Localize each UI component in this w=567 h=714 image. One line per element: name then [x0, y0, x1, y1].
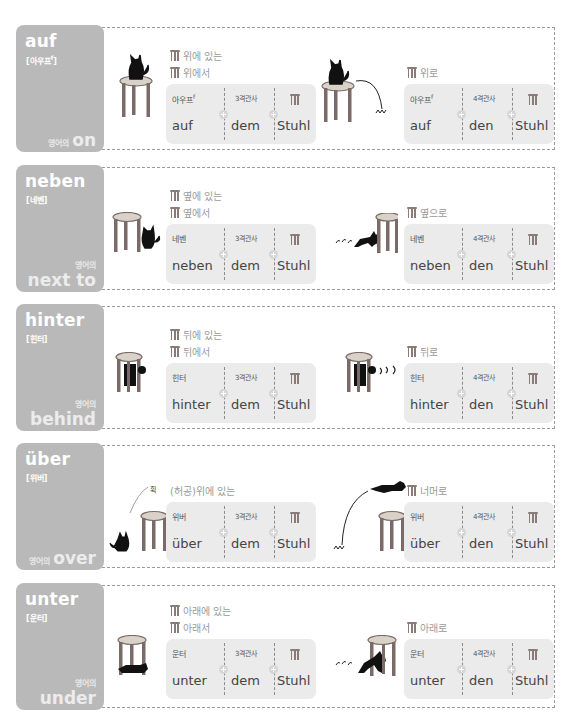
stool-icon — [407, 485, 417, 496]
pronunciation: [아우프f] — [26, 54, 57, 66]
cat-under-stool-illustration — [116, 635, 150, 677]
preposition-word: auf — [25, 31, 57, 51]
stool-icon — [528, 94, 538, 105]
stool-icon — [170, 50, 180, 61]
dative-formula-box: 힌터hinter 3격관사dem Stuhl — [166, 363, 316, 423]
preposition-row-neben: neben [네벤] 영어의 next to 옆에 있는 옆에서 네벤neben… — [16, 165, 555, 292]
stool-icon — [290, 512, 300, 523]
stool-with-cat-below-illustration — [108, 473, 170, 555]
stool-icon — [290, 373, 300, 384]
preposition-row-hinter: hinter [힌터] 영어의 behind 뒤에 있는 뒤에서 힌터hinte… — [16, 304, 555, 431]
preposition-word: hinter — [25, 310, 84, 330]
static-meaning-label: 옆에서 — [170, 205, 210, 220]
preposition-word: unter — [25, 589, 78, 609]
motion-meaning-label: 옆으로 — [407, 205, 447, 220]
english-equivalent: next to — [28, 270, 96, 290]
preposition-tab: unter [운터] 영어의 under — [16, 583, 104, 710]
stool-icon — [290, 94, 300, 105]
static-meaning-label: 아래에 있는 — [170, 603, 231, 618]
dative-formula-box: 네벤neben 3격관사dem Stuhl — [166, 224, 316, 284]
accusative-formula-box: 힌터hinter 4격관사den Stuhl — [404, 363, 554, 423]
preposition-word: über — [25, 449, 70, 469]
cat-on-stool-illustration — [118, 51, 154, 121]
cat-jumping-over-stool-illustration — [332, 473, 412, 555]
cat-walking-under-stool-illustration — [334, 635, 400, 679]
preposition-tab: über [위버] 영어의over — [16, 443, 104, 570]
static-meaning-label: 아래서 — [170, 620, 210, 635]
cat-moving-behind-stool-illustration — [344, 352, 406, 394]
cat-beside-stool-illustration — [111, 212, 163, 254]
stool-icon — [170, 346, 180, 357]
english-equivalent: under — [40, 688, 96, 708]
stool-icon — [170, 67, 180, 78]
motion-meaning-label: 위로 — [407, 65, 438, 80]
stool-icon — [290, 234, 300, 245]
preposition-row-ueber: über [위버] 영어의over 휙 (허공)위에 있는 위버über 3격관… — [16, 443, 555, 570]
accusative-formula-box: 아우프fauf 4격관사den Stuhl — [404, 84, 554, 144]
stool-icon — [170, 605, 180, 616]
stool-icon — [170, 329, 180, 340]
english-equivalent: 영어의over — [29, 548, 96, 568]
dative-formula-box: 운터unter 3격관사dem Stuhl — [166, 639, 316, 699]
static-meaning-label: 위에서 — [170, 65, 210, 80]
pronunciation: [네벤] — [26, 194, 47, 205]
static-meaning-label: 뒤에서 — [170, 344, 210, 359]
cat-walking-beside-stool-illustration — [334, 213, 398, 255]
motion-meaning-label: 뒤로 — [407, 344, 438, 359]
pronunciation: [힌터] — [26, 333, 47, 344]
stool-icon — [290, 649, 300, 660]
english-prefix: 영어의 — [75, 398, 96, 409]
dative-formula-box: 위버über 3격관사dem Stuhl — [166, 502, 316, 562]
english-prefix: 영어의 — [75, 677, 96, 688]
stool-icon — [170, 207, 180, 218]
stool-icon — [407, 346, 417, 357]
preposition-row-unter: unter [운터] 영어의 under 아래에 있는 아래서 운터unter … — [16, 583, 555, 710]
static-meaning-label: 옆에 있는 — [170, 188, 222, 203]
english-prefix: 영어의 — [75, 259, 96, 270]
stool-icon — [528, 512, 538, 523]
stool-icon — [528, 234, 538, 245]
preposition-tab: auf [아우프f] 영어의on — [16, 25, 104, 152]
stool-icon — [407, 207, 417, 218]
stool-icon — [170, 190, 180, 201]
accusative-formula-box: 네벤neben 4격관사den Stuhl — [404, 224, 554, 284]
cat-jumping-onto-stool-illustration — [318, 59, 400, 123]
pronunciation: [운터] — [26, 612, 47, 623]
static-meaning-label: (허공)위에 있는 — [170, 483, 235, 498]
stool-icon — [528, 649, 538, 660]
pronunciation: [위버] — [26, 472, 47, 483]
accusative-formula-box: 운터unter 4격관사den Stuhl — [404, 639, 554, 699]
english-equivalent: 영어의on — [48, 130, 96, 150]
cat-behind-stool-illustration — [114, 352, 150, 394]
static-meaning-label: 위에 있는 — [170, 48, 222, 63]
stool-icon — [170, 622, 180, 633]
preposition-tab: hinter [힌터] 영어의 behind — [16, 304, 104, 431]
accusative-formula-box: 위버über 4격관사den Stuhl — [404, 502, 554, 562]
static-meaning-label: 뒤에 있는 — [170, 327, 222, 342]
motion-meaning-label: 아래로 — [407, 620, 447, 635]
dative-formula-box: 아우프fauf 3격관사dem Stuhl — [166, 84, 316, 144]
preposition-word: neben — [25, 171, 85, 191]
stool-icon — [407, 622, 417, 633]
english-equivalent: behind — [30, 409, 96, 429]
motion-meaning-label: 너머로 — [407, 483, 447, 498]
sound-effect: 휙 — [150, 484, 156, 494]
stool-icon — [528, 373, 538, 384]
preposition-row-auf: auf [아우프f] 영어의on 위에 있는 위에서 아우프fauf 3격관사d… — [16, 25, 555, 152]
stool-icon — [407, 67, 417, 78]
preposition-tab: neben [네벤] 영어의 next to — [16, 165, 104, 292]
